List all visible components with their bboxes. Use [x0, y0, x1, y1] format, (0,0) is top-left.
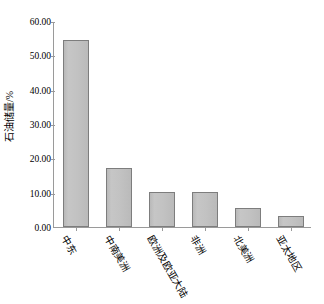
x-axis-tick-mark: [162, 227, 163, 231]
y-axis-tick-label: 10.00: [7, 189, 51, 198]
y-axis-tick-label: 0.00: [7, 224, 51, 233]
x-axis-category-label: 非洲: [187, 232, 210, 257]
x-axis-tick-mark: [205, 227, 206, 231]
x-axis-category-label: 中东: [58, 232, 81, 257]
bar: [278, 216, 304, 227]
x-axis-category-label: 北美洲: [230, 232, 258, 265]
x-axis-category-label: 中南美洲: [101, 232, 134, 274]
bar: [192, 192, 218, 227]
y-axis-tick-label: 40.00: [7, 86, 51, 95]
x-axis-tick-mark: [291, 227, 292, 231]
y-axis-tick-label: 20.00: [7, 155, 51, 164]
y-axis-tick-label: 30.00: [7, 121, 51, 130]
bars-layer: [54, 22, 311, 227]
x-axis-tick-mark: [248, 227, 249, 231]
bar: [235, 208, 261, 227]
y-axis-tick-labels: 60.0050.0040.0030.0020.0010.000.00: [0, 0, 51, 304]
bar: [106, 168, 132, 227]
x-axis-category-label: 亚太地区: [273, 232, 306, 274]
bar: [149, 192, 175, 227]
y-axis-tick-label: 60.00: [7, 18, 51, 27]
bar: [63, 40, 89, 227]
x-axis-tick-mark: [119, 227, 120, 231]
plot-area: [53, 22, 311, 228]
y-axis-tick-label: 50.00: [7, 52, 51, 61]
x-axis-category-label: 欧洲及欧亚大陆: [144, 232, 192, 300]
bar-chart: 石油储量/% 60.0050.0040.0030.0020.0010.000.0…: [0, 0, 324, 304]
x-axis-tick-mark: [76, 227, 77, 231]
x-axis-category-labels: 中东中南美洲欧洲及欧亚大陆非洲北美洲亚太地区: [53, 232, 311, 304]
